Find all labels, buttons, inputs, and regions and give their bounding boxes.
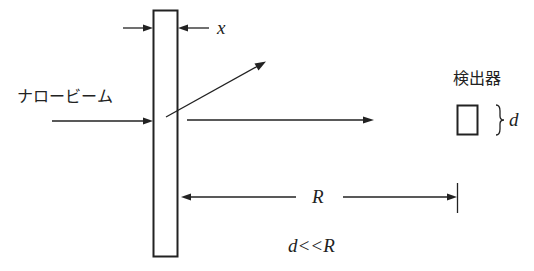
detector-size-brace — [496, 105, 504, 135]
detector-box — [458, 106, 478, 135]
incident-beam-arrow — [52, 118, 153, 125]
distance-label: R — [311, 186, 324, 207]
scattered-ray-arrow — [166, 62, 266, 118]
thickness-dimension — [123, 25, 209, 32]
absorber-slab — [154, 11, 178, 257]
detector-label: 検出器 — [453, 69, 501, 88]
thickness-label: x — [216, 17, 226, 38]
transmitted-beam-arrow — [187, 117, 374, 124]
diagram-canvas: x ナロービーム 検出器 d R d<<R — [0, 0, 534, 271]
beam-label: ナロービーム — [17, 87, 113, 106]
condition-label: d<<R — [288, 235, 335, 256]
detector-size-label: d — [509, 109, 519, 130]
